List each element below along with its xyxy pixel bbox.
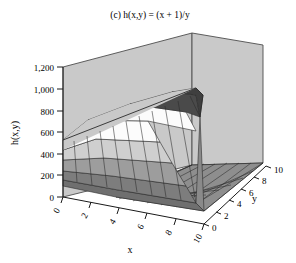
x-tick-label: 2 [79,211,90,220]
y-tick-label: 4 [237,199,242,209]
y-tick-label: 10 [274,165,284,175]
x-tick-label: 8 [163,228,174,237]
x-tick-label: 0 [51,206,62,215]
z-axis-ticks: 1,200 1,000 800 600 400 200 0 [34,63,63,203]
x-tick-label: 4 [107,217,118,226]
z-tick-label: 1,000 [34,85,55,95]
z-tick-label: 1,200 [34,63,55,73]
y-tick-label: 8 [262,176,267,186]
z-tick-label: 400 [41,150,55,160]
x-tick-label: 6 [135,222,146,231]
x-axis-label: x [128,244,133,255]
z-tick-label: 200 [41,171,55,181]
z-tick-label: 0 [50,193,55,203]
x-tick-label: 10 [191,232,204,245]
figure-title: (c) h(x,y) = (x + 1)/y [110,10,190,21]
plot-canvas: 1,200 1,000 800 600 400 200 0 0 2 4 6 8 … [0,0,296,263]
y-tick-label: 2 [224,211,229,221]
surface-plot-figure: 1,200 1,000 800 600 400 200 0 0 2 4 6 8 … [0,0,296,263]
y-axis-label: y [252,193,257,204]
y-tick-label: 0 [212,223,217,233]
z-tick-label: 600 [41,128,55,138]
z-tick-label: 800 [41,107,55,117]
z-axis-label: h(x,y) [9,121,21,145]
